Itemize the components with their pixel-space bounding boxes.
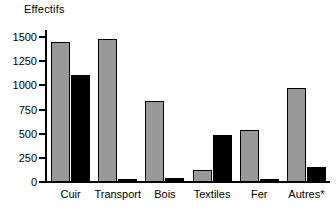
x-tick-label: Fer	[251, 188, 268, 200]
y-tick-label: 250	[19, 152, 37, 164]
bar-bois-series-2	[165, 178, 184, 182]
y-tick-mark	[39, 84, 46, 86]
y-tick-mark	[39, 157, 46, 159]
y-axis-title: Effectifs	[24, 3, 65, 15]
bar-cuir-series-1	[51, 42, 70, 182]
y-tick-label: 500	[19, 128, 37, 140]
y-tick-mark	[39, 181, 46, 183]
y-tick-label: 1500	[13, 31, 37, 43]
x-tick-label: Cuir	[60, 188, 80, 200]
plot-area	[47, 30, 330, 182]
bar-bois-series-1	[145, 101, 164, 182]
bar-chart: Effectifs 0250500750100012501500 CuirTra…	[0, 0, 336, 219]
y-tick-mark	[39, 60, 46, 62]
y-tick-label: 750	[19, 104, 37, 116]
bar-autres-series-2	[307, 167, 326, 182]
y-tick-mark	[39, 109, 46, 111]
y-tick-mark	[39, 133, 46, 135]
bar-textiles-series-2	[213, 135, 232, 182]
bar-cuir-series-2	[71, 75, 90, 182]
bar-textiles-series-1	[193, 170, 212, 182]
y-tick-mark	[39, 36, 46, 38]
x-tick-label: Textiles	[194, 188, 231, 200]
x-tick-label: Bois	[154, 188, 175, 200]
x-tick-label: Autres*	[288, 188, 324, 200]
y-tick-label: 0	[31, 176, 37, 188]
bar-fer-series-1	[240, 130, 259, 182]
y-tick-label: 1000	[13, 79, 37, 91]
bar-transport-series-2	[118, 179, 137, 182]
bar-autres-series-1	[287, 88, 306, 182]
bar-transport-series-1	[98, 39, 117, 182]
bar-fer-series-2	[260, 179, 279, 182]
x-tick-label: Transport	[94, 188, 141, 200]
y-tick-label: 1250	[13, 55, 37, 67]
